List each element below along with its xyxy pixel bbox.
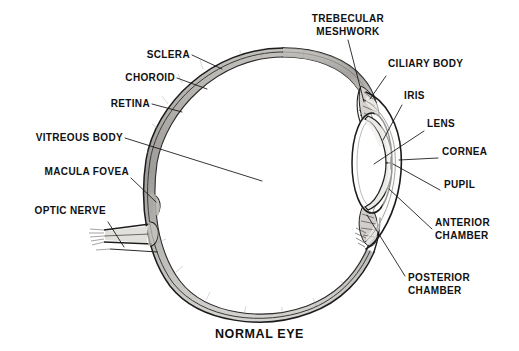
label-lens: LENS [427,118,517,131]
label-cornea-text: CORNEA [442,146,487,157]
leader-sclera [192,55,222,69]
label-trebecular-meshwork-line2: MESHWORK [293,25,403,38]
label-retina: RETINA [0,98,150,111]
label-anterior-chamber-line2: CHAMBER [435,229,519,242]
figure-caption: NORMAL EYE [0,327,519,341]
label-anterior-chamber-line1: ANTERIOR [435,216,519,229]
label-posterior-chamber-line2: CHAMBER [408,284,498,297]
eyeball-wall [144,48,374,322]
label-ciliary-body: CILIARY BODY [388,58,518,71]
label-sclera: SCLERA [35,49,190,62]
label-trebecular-meshwork-line1: TREBECULAR [293,12,403,25]
label-optic-nerve-text: OPTIC NERVE [35,205,106,216]
label-choroid: CHOROID [20,72,175,85]
label-trebecular-meshwork: TREBECULAR MESHWORK [293,12,403,38]
eye-diagram-figure: SCLERA CHOROID RETINA VITREOUS BODY MACU… [0,0,519,351]
label-ciliary-body-text: CILIARY BODY [388,58,463,69]
label-lens-text: LENS [427,118,455,129]
leader-anterior-chamber [389,189,432,229]
label-vitreous-body-text: VITREOUS BODY [36,132,123,143]
label-cornea: CORNEA [442,146,519,159]
leader-ciliary-body [370,76,386,99]
label-anterior-chamber: ANTERIOR CHAMBER [435,216,519,242]
label-pupil-text: PUPIL [444,179,475,190]
label-posterior-chamber-line1: POSTERIOR [408,271,498,284]
label-retina-text: RETINA [111,98,150,109]
label-iris-text: IRIS [404,90,425,101]
optic-nerve-lower-edge [110,249,158,252]
label-vitreous-body: VITREOUS BODY [0,132,123,145]
label-posterior-chamber: POSTERIOR CHAMBER [408,271,498,297]
label-choroid-text: CHOROID [125,72,175,83]
label-sclera-text: SCLERA [147,49,190,60]
label-macula-fovea: MACULA FOVEA [0,166,129,179]
leader-cornea [399,158,438,160]
anterior-segment [283,48,401,252]
label-pupil: PUPIL [444,179,516,192]
label-macula-fovea-text: MACULA FOVEA [45,166,129,177]
label-iris: IRIS [404,90,514,103]
scleral-wall-band [144,48,373,322]
label-optic-nerve: OPTIC NERVE [0,205,106,218]
